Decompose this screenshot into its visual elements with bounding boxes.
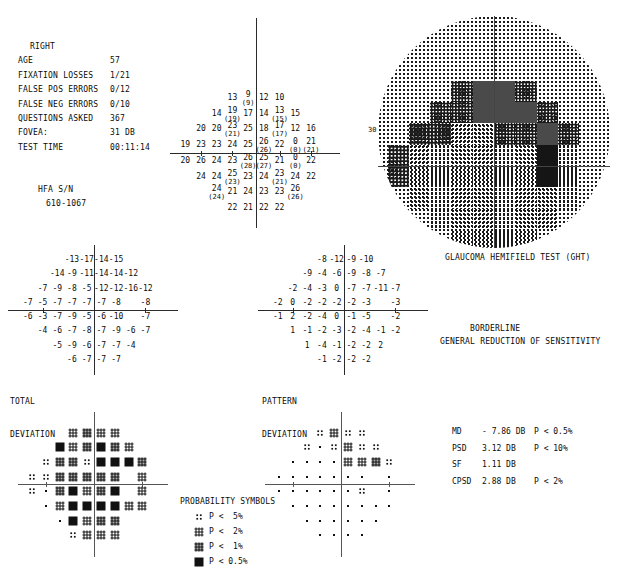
probability-symbol (292, 461, 294, 463)
field-value: -10 (109, 313, 123, 321)
field-value: 23 (228, 157, 238, 165)
field-value: -1 (347, 313, 357, 321)
probability-symbol (292, 476, 294, 478)
probability-symbol (96, 428, 105, 437)
grayscale-cell (388, 166, 409, 187)
field-value: 22 (306, 157, 316, 165)
field-value: 19 (228, 107, 238, 115)
probability-symbol (110, 531, 119, 540)
grayscale-cell (515, 81, 536, 102)
field-value: 22 (259, 204, 269, 212)
prob-plot-axis-tick (293, 482, 294, 487)
grayscale-cell (451, 166, 472, 187)
field-value: -2 (347, 327, 357, 335)
grayscale-cell (494, 102, 515, 123)
pattern-deviation-caption-line1: PATTERN (262, 396, 307, 407)
probability-symbol (347, 476, 349, 478)
prob-plot-horizontal-axis (265, 484, 415, 485)
global-index-value: 3.12 DB (482, 441, 534, 458)
probability-symbol (96, 502, 105, 511)
probability-symbol (344, 429, 351, 436)
prob-plot-axis-tick (389, 482, 390, 487)
probability-symbol (83, 443, 92, 452)
probability-symbol (388, 476, 390, 478)
grayscale-cell (473, 187, 494, 208)
field-value-retest: (23) (224, 178, 241, 186)
probability-symbol (375, 520, 377, 522)
legend-rows: P < 5%P < 2%P < 1%P < 0.5% (180, 509, 275, 569)
field-value: -4 (361, 327, 371, 335)
grayscale-cell (494, 81, 515, 102)
grayscale-cell (451, 81, 472, 102)
field-value: -9 (111, 327, 121, 335)
field-value: -7 (97, 299, 107, 307)
field-value: 21 (228, 188, 238, 196)
grayscale-horizontal-axis (378, 166, 610, 167)
field-value: -6 (67, 356, 77, 364)
probability-symbol (361, 505, 363, 507)
probability-symbol (110, 487, 119, 496)
field-value: -8 (111, 299, 121, 307)
field-value: -12 (138, 285, 152, 293)
probability-symbol (278, 490, 280, 492)
pattern-deviation-probability-plot (265, 412, 415, 557)
field-value: -2 (317, 327, 327, 335)
field-value: -8 (361, 270, 371, 278)
legend-row: P < 1% (180, 539, 275, 554)
field-value: 21 (243, 204, 253, 212)
field-value: -7 (391, 285, 401, 293)
probability-symbol (306, 461, 308, 463)
grayscale-cell (558, 166, 579, 187)
probability-symbol (138, 472, 147, 481)
field-value: 24 (212, 157, 222, 165)
grayscale-cell (494, 230, 515, 251)
field-value: -5 (82, 313, 92, 321)
global-index-name: CPSD (452, 474, 482, 491)
field-value: -14 (109, 270, 123, 278)
field-value: -3 (332, 327, 342, 335)
field-value: 24 (212, 173, 222, 181)
probability-symbol (319, 446, 321, 448)
field-value: -7 (82, 299, 92, 307)
global-index-prob: P < 0.5% (534, 427, 573, 436)
field-value: 10 (275, 94, 285, 102)
header-row-value: 00:11:14 (110, 141, 150, 155)
grayscale-degree-label: 30 (368, 126, 376, 134)
probability-symbol (28, 488, 35, 495)
probability-symbol (96, 531, 105, 540)
field-value: 13 (228, 94, 238, 102)
probability-symbol (375, 505, 377, 507)
probability-symbol (361, 520, 363, 522)
field-value-retest: (27) (255, 162, 272, 170)
field-value: 17 (275, 122, 285, 130)
grayscale-vertical-axis (494, 16, 495, 248)
probability-symbol (138, 502, 147, 511)
probability-symbol (358, 429, 365, 436)
field-value: -11 (79, 270, 93, 278)
field-value: 25 (228, 170, 238, 178)
probability-symbol (69, 443, 78, 452)
field-value: -3 (317, 285, 327, 293)
field-value: 23 (196, 141, 206, 149)
probability-symbol (195, 542, 204, 551)
grayscale-cell (537, 123, 558, 144)
global-index-row: CPSD2.88 DBP < 2% (452, 474, 573, 491)
field-value: -5 (361, 313, 371, 321)
field-value: 14 (259, 110, 269, 118)
probability-symbol (292, 505, 294, 507)
field-value: -4 (317, 270, 327, 278)
global-index-value: 2.88 DB (482, 474, 534, 491)
ght-result-line1: BORDERLINE (470, 324, 520, 333)
field-value: -15 (109, 256, 123, 264)
field-value: -7 (97, 327, 107, 335)
field-value: -9 (302, 270, 312, 278)
field-value-retest: (0) (289, 162, 302, 170)
field-value: 0 (293, 154, 298, 162)
pattern-deviation-numeric-plot: -8-12-9-10-9-4-6-9-8-7-2-4-30-7-7-11-7-2… (258, 245, 428, 375)
field-value: 24 (212, 185, 222, 193)
probability-symbol (195, 527, 204, 536)
probability-symbol (96, 487, 105, 496)
probability-symbol (388, 490, 390, 492)
field-value: 16 (306, 125, 316, 133)
probability-symbol (69, 502, 78, 511)
